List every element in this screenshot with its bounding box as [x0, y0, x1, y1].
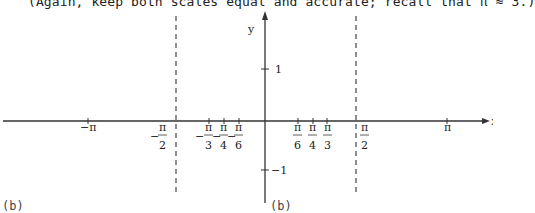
x-axis-label: x: [491, 115, 493, 128]
x-tick-label-neg-pi-over-4: − π 4: [212, 121, 228, 152]
bottom-fragment-left: (b): [2, 199, 24, 213]
x-tick-label-neg-pi: −π: [80, 121, 96, 134]
y-tick-label-1: 1: [275, 63, 282, 76]
x-tick-label-pi-over-4: π 4: [308, 121, 317, 152]
y-axis-arrow-icon: [262, 11, 268, 20]
svg-text:6: 6: [294, 139, 301, 152]
svg-text:π: π: [361, 121, 368, 134]
svg-text:π: π: [235, 121, 242, 134]
y-axis-label: y: [247, 23, 255, 36]
svg-text:π: π: [309, 121, 316, 134]
x-tick-label-pi: π: [444, 121, 451, 134]
svg-text:2: 2: [361, 139, 368, 152]
x-tick-label-neg-pi-over-3: − π 3: [195, 121, 213, 152]
x-tick-label-neg-pi-over-6: − π 6: [227, 121, 243, 152]
svg-text:π: π: [159, 121, 166, 134]
svg-text:π: π: [294, 121, 301, 134]
bottom-fragment-right: (b): [270, 199, 292, 213]
x-tick-label-pi-over-3: π 3: [323, 121, 332, 152]
x-tick-label-neg-pi-over-2: − π 2: [150, 121, 167, 152]
svg-text:3: 3: [205, 139, 212, 152]
svg-text:π: π: [324, 121, 331, 134]
svg-text:6: 6: [235, 139, 242, 152]
svg-text:2: 2: [159, 139, 166, 152]
svg-text:−: −: [150, 130, 159, 143]
x-tick-label-pi-over-2: π 2: [360, 121, 369, 152]
x-tick-label-pi-over-6: π 6: [293, 121, 302, 152]
y-tick-label-neg-1: −1: [271, 164, 287, 177]
svg-text:4: 4: [309, 139, 316, 152]
svg-text:4: 4: [220, 139, 227, 152]
svg-text:3: 3: [324, 139, 331, 152]
x-axis-arrow-icon: [482, 118, 490, 124]
svg-text:−: −: [195, 130, 204, 143]
